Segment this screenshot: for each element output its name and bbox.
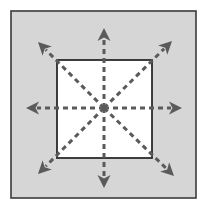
center-point: [101, 105, 106, 110]
diagram-canvas: [0, 0, 207, 209]
figure-root: [0, 0, 207, 209]
